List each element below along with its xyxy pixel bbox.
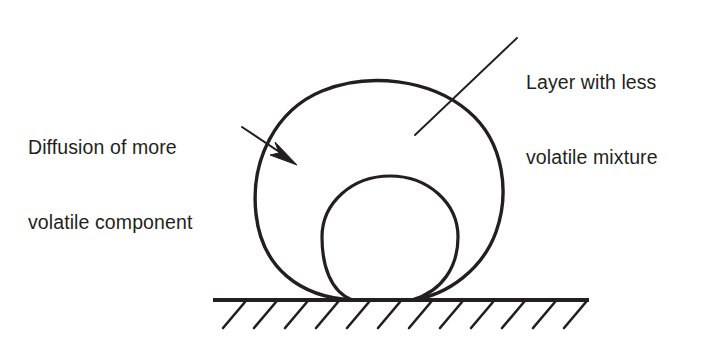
diffusion-arrow [242,127,297,165]
label-diffusion-line-1: Diffusion of more [28,135,192,160]
hatch-mark [223,302,245,328]
inner-droplet-core [322,176,458,300]
hatch-mark [440,302,462,328]
hatch-mark [254,302,276,328]
outer-droplet-less-volatile-layer [255,81,503,300]
hatch-mark [378,302,400,328]
hatch-mark [285,302,307,328]
diagram-figure: Layer with less volatile mixture Diffusi… [0,0,718,344]
hatch-mark [409,302,431,328]
hatch-mark [533,302,555,328]
label-layer-with-less-volatile-mixture: Layer with less volatile mixture [526,20,658,220]
label-layer-line-1: Layer with less [526,70,658,95]
label-diffusion-line-2: volatile component [28,210,192,235]
label-layer-line-2: volatile mixture [526,145,658,170]
diffusion-arrow-head [270,142,297,165]
hatch-mark [316,302,338,328]
hatch-mark [347,302,369,328]
hatch-mark [502,302,524,328]
hatch-mark [564,302,586,328]
surface-hatch-group [223,302,586,328]
label-diffusion-of-more-volatile-component: Diffusion of more volatile component [28,85,192,285]
layer-label-leader-line [415,38,517,135]
hatch-mark [471,302,493,328]
